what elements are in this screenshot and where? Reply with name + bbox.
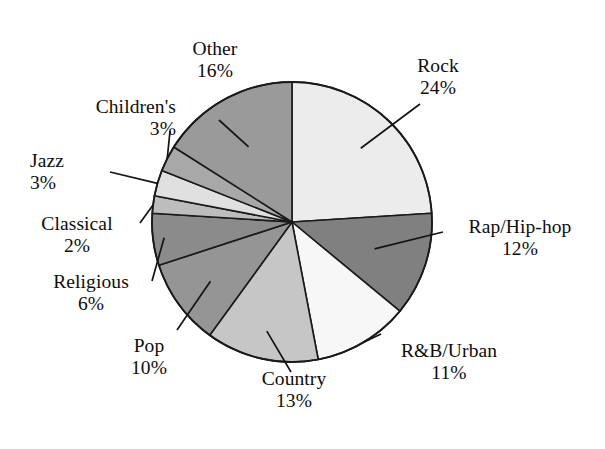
slice-label-religious-value: 6% <box>30 293 152 315</box>
slice-label-country-name: Country <box>242 368 346 390</box>
slice-label-pop-value: 10% <box>118 357 180 379</box>
slice-label-rock-value: 24% <box>396 77 480 99</box>
slice-label-rnb-value: 11% <box>374 362 524 384</box>
slice-label-rock: Rock 24% <box>396 55 480 99</box>
slice-label-rap-name: Rap/Hip-hop <box>444 216 596 238</box>
slice-label-pop: Pop 10% <box>118 335 180 379</box>
slice-label-rnb-name: R&B/Urban <box>374 340 524 362</box>
slice-label-childrens-name: Children's <box>46 96 176 118</box>
slice-label-rnb: R&B/Urban 11% <box>374 340 524 384</box>
slice-label-religious: Religious 6% <box>30 271 152 315</box>
slice-label-jazz: Jazz 3% <box>30 150 106 194</box>
slice-label-country-value: 13% <box>242 390 346 412</box>
slice-label-pop-name: Pop <box>118 335 180 357</box>
slice-label-other: Other 16% <box>160 38 270 82</box>
slice-label-jazz-value: 3% <box>30 172 106 194</box>
slice-label-rock-name: Rock <box>396 55 480 77</box>
pie-slice-rock <box>292 82 432 222</box>
slice-label-other-value: 16% <box>160 60 270 82</box>
slice-label-other-name: Other <box>160 38 270 60</box>
slice-label-rap: Rap/Hip-hop 12% <box>444 216 596 260</box>
leader-line-jazz <box>110 172 157 183</box>
slice-label-childrens: Children's 3% <box>46 96 176 140</box>
slice-label-jazz-name: Jazz <box>30 150 106 172</box>
slice-label-classical-value: 2% <box>18 235 136 257</box>
leader-line-classical <box>140 205 153 223</box>
slice-label-classical: Classical 2% <box>18 213 136 257</box>
pie-chart-figure: Other 16% Children's 3% Jazz 3% Classica… <box>0 0 605 449</box>
pie-slice-group <box>152 82 432 362</box>
slice-label-childrens-value: 3% <box>46 118 176 140</box>
slice-label-classical-name: Classical <box>18 213 136 235</box>
slice-label-rap-value: 12% <box>444 238 596 260</box>
slice-label-country: Country 13% <box>242 368 346 412</box>
slice-label-religious-name: Religious <box>30 271 152 293</box>
